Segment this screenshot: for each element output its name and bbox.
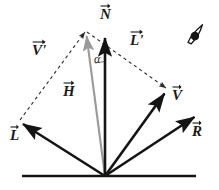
label-vector-h: H xyxy=(63,84,75,99)
label-vector-r: R xyxy=(192,124,202,139)
vector-r-reflection xyxy=(105,117,195,176)
vector-l-light xyxy=(23,124,105,176)
vector-v-view xyxy=(105,94,165,177)
label-angle-alpha: α xyxy=(94,53,100,65)
dashed-edge-v-prime xyxy=(20,32,85,120)
label-text-v-prime: V' xyxy=(32,42,46,58)
label-vector-v-prime: V' xyxy=(32,43,46,58)
diagram-canvas xyxy=(0,0,219,190)
eye-icon xyxy=(184,25,208,45)
label-text-l: L xyxy=(10,127,19,143)
label-text-h: H xyxy=(63,83,75,99)
label-vector-l-prime: L' xyxy=(130,33,143,48)
label-vector-v: V xyxy=(172,88,182,103)
label-vector-l: L xyxy=(10,128,19,143)
vector-diagram-figure: N H L L' V V' xyxy=(0,0,219,190)
label-text-v: V xyxy=(172,87,182,103)
label-text-l-prime: L' xyxy=(130,32,143,48)
label-text-r: R xyxy=(192,123,202,139)
label-vector-n: N xyxy=(100,7,111,22)
label-text-n: N xyxy=(100,6,111,22)
